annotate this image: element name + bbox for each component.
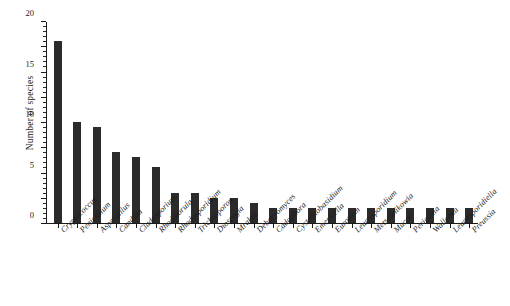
y-tick-minor (43, 157, 46, 158)
y-tick-major: 15 (41, 147, 46, 148)
y-tick-minor (43, 142, 46, 143)
y-tick-major: 40 (41, 21, 46, 22)
y-tick-minor (43, 31, 46, 32)
y-tick-major: 30 (41, 72, 46, 73)
y-tick-minor (43, 132, 46, 133)
y-tick-minor (43, 178, 46, 179)
bar-chart: Number of species 0510152025303540 Crypt… (0, 0, 510, 306)
y-tick-minor (43, 77, 46, 78)
y-tick-minor (43, 152, 46, 153)
y-tick-major: 0 (41, 223, 46, 224)
y-tick-minor (43, 208, 46, 209)
y-tick-minor (43, 127, 46, 128)
y-tick-label: 10 (25, 110, 34, 119)
plot-area: 0510152025303540 (46, 22, 478, 224)
y-tick-minor (43, 162, 46, 163)
y-tick-minor (43, 87, 46, 88)
y-tick-minor (43, 41, 46, 42)
y-tick-minor (43, 56, 46, 57)
y-tick-minor (43, 193, 46, 194)
y-tick-minor (43, 137, 46, 138)
y-tick-label: 20 (25, 9, 34, 18)
y-tick-major: 20 (41, 122, 46, 123)
y-tick-minor (43, 82, 46, 83)
y-tick-minor (43, 188, 46, 189)
y-tick-major: 10 (41, 173, 46, 174)
y-tick-minor (43, 66, 46, 67)
y-tick-major: 5 (41, 198, 46, 199)
y-tick-minor (43, 117, 46, 118)
y-axis-line (46, 22, 47, 224)
y-tick-label: 5 (30, 161, 34, 170)
bar (54, 41, 62, 223)
y-tick-major: 35 (41, 46, 46, 47)
y-tick-minor (43, 102, 46, 103)
y-tick-minor (43, 92, 46, 93)
y-tick-label: 0 (30, 211, 34, 220)
y-tick-minor (43, 203, 46, 204)
x-axis-labels: CryptococcusPenicilliumAspergillusCandid… (46, 228, 510, 306)
y-tick-minor (43, 213, 46, 214)
y-tick-minor (43, 183, 46, 184)
y-tick-minor (43, 26, 46, 27)
y-tick-minor (43, 107, 46, 108)
y-tick-minor (43, 218, 46, 219)
y-tick-minor (43, 61, 46, 62)
y-tick-minor (43, 36, 46, 37)
y-tick-label: 15 (25, 60, 34, 69)
y-tick-major: 25 (41, 97, 46, 98)
y-tick-minor (43, 51, 46, 52)
y-tick-minor (43, 167, 46, 168)
y-tick-minor (43, 112, 46, 113)
